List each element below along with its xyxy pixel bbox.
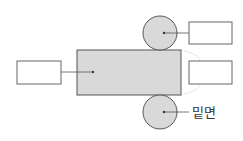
right-edge-answer-box[interactable] — [189, 61, 232, 84]
bottom-base-label: 밑면 — [192, 105, 216, 120]
lateral-face-pointer-dot — [92, 71, 94, 73]
bottom-base-pointer-dot — [163, 111, 165, 113]
cylinder-net-diagram: 밑면 — [0, 0, 243, 141]
lateral-face-answer-box[interactable] — [17, 61, 61, 84]
top-base-answer-box[interactable] — [189, 22, 232, 44]
top-base-pointer-dot — [163, 32, 165, 34]
